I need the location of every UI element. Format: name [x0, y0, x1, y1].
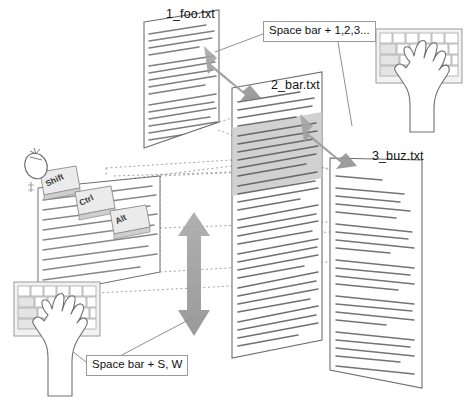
file-panel-bar[interactable] [232, 72, 322, 358]
hand-on-keyboard-bottom-left [14, 282, 100, 396]
file-label-1-foo-txt: 1_foo.txt [166, 7, 215, 21]
callout-space-bar-numbers: Space bar + 1,2,3... [263, 21, 376, 42]
file-panel-foo[interactable] [144, 10, 219, 148]
hand-on-keyboard-top-right [376, 29, 462, 132]
callout-space-bar-sw: Space bar + S, W [86, 355, 188, 376]
diagram-canvas [0, 0, 468, 402]
file-panel-buz[interactable] [330, 158, 422, 388]
file-label-2-bar-txt: 2_bar.txt [271, 78, 320, 92]
arrow-vertical [178, 212, 210, 336]
file-label-3-buz-txt: 3_buz.txt [372, 149, 424, 163]
